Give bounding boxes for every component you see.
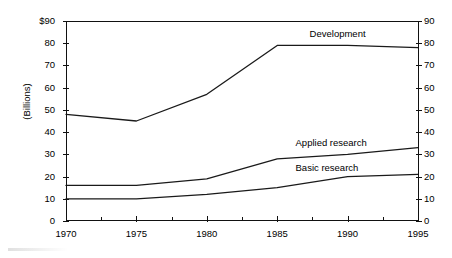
y-tick-right-70 [416,65,422,66]
y-tick-label-right-50: 50 [424,105,435,115]
series-annotation-development: Development [310,28,366,39]
y-tick-label-right-60: 60 [424,83,435,93]
y-tick-right-30 [416,154,422,155]
y-tick-label-right-10: 10 [424,194,435,204]
y-tick-label-left-80: 80 [44,38,55,48]
y-tick-label-left-50: 50 [44,105,55,115]
y-tick-right-90 [416,21,422,22]
y-tick-left-30 [63,154,69,155]
x-tick-minor [101,217,102,221]
y-tick-right-50 [416,110,422,111]
x-tick-label-1975: 1975 [116,228,156,239]
y-tick-right-0 [416,221,422,222]
y-tick-label-right-80: 80 [424,38,435,48]
y-tick-label-right-90: 90 [424,16,435,26]
y-tick-label-right-30: 30 [424,149,435,159]
x-tick-minor [172,217,173,221]
y-tick-left-20 [63,177,69,178]
x-tick-label-1980: 1980 [187,228,227,239]
y-tick-label-right-20: 20 [424,172,435,182]
y-tick-label-left-20: 20 [44,172,55,182]
x-tick-1970 [66,216,67,222]
y-tick-label-left-10: 10 [44,194,55,204]
y-tick-right-20 [416,177,422,178]
y-tick-label-left-30: 30 [44,149,55,159]
y-tick-label-left-40: 40 [44,127,55,137]
y-tick-label-right-70: 70 [424,60,435,70]
y-tick-left-40 [63,132,69,133]
x-tick-label-1970: 1970 [46,228,86,239]
x-tick-label-1995: 1995 [398,228,438,239]
y-tick-left-90 [63,21,69,22]
y-tick-label-left-0: 0 [50,216,55,226]
y-tick-right-40 [416,132,422,133]
y-tick-right-80 [416,43,422,44]
x-tick-minor [383,217,384,221]
x-tick-label-1990: 1990 [328,228,368,239]
y-axis-title: (Billions) [21,72,32,132]
y-tick-left-70 [63,65,69,66]
x-tick-label-1985: 1985 [257,228,297,239]
y-tick-label-left-90: $90 [39,16,55,26]
x-tick-1985 [277,216,278,222]
page-edge-artifact [8,248,68,251]
axis-left-line [66,21,67,221]
y-tick-left-50 [63,110,69,111]
series-annotation-applied-research: Applied research [296,137,367,148]
chart-figure: (Billions) $9080706050403020100 90807060… [0,0,452,258]
y-tick-label-left-70: 70 [44,60,55,70]
y-tick-right-10 [416,199,422,200]
y-tick-label-left-60: 60 [44,83,55,93]
x-tick-minor [242,217,243,221]
series-annotation-basic-research: Basic research [296,162,359,173]
y-tick-label-right-0: 0 [424,216,429,226]
y-tick-left-60 [63,88,69,89]
y-tick-left-80 [63,43,69,44]
axis-right-line [418,21,419,221]
y-tick-right-60 [416,88,422,89]
series-line-applied-research [66,148,418,186]
y-tick-left-10 [63,199,69,200]
x-tick-1980 [207,216,208,222]
x-tick-1995 [418,216,419,222]
y-tick-label-right-40: 40 [424,127,435,137]
x-tick-minor [312,217,313,221]
series-line-development [66,45,418,121]
series-line-basic-research [66,174,418,198]
x-tick-1990 [348,216,349,222]
axis-top-line [66,21,419,22]
x-tick-1975 [136,216,137,222]
